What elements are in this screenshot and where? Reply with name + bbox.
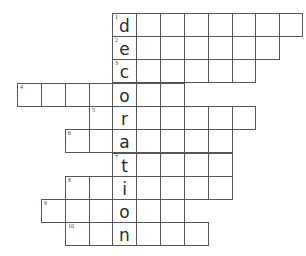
cell-letter: c <box>113 60 136 82</box>
crossword-cell[interactable] <box>160 83 185 107</box>
crossword-cell[interactable] <box>208 153 233 177</box>
crossword-cell[interactable] <box>279 13 303 37</box>
crossword-cell-filled[interactable]: o <box>112 199 137 223</box>
crossword-cell[interactable] <box>41 83 66 107</box>
cell-letter: e <box>113 37 136 59</box>
crossword-cell-filled[interactable]: 3c <box>112 59 137 83</box>
cell-letter: n <box>113 223 136 245</box>
cell-letter: t <box>113 154 136 176</box>
crossword-cell[interactable] <box>255 13 280 37</box>
crossword-cell[interactable] <box>136 106 161 130</box>
clue-number: 4 <box>20 84 23 91</box>
crossword-cell[interactable] <box>208 176 233 200</box>
crossword-cell[interactable] <box>136 59 161 83</box>
clue-number: 6 <box>68 130 71 137</box>
crossword-cell[interactable] <box>160 222 185 246</box>
crossword-cell[interactable] <box>89 199 113 223</box>
crossword-cell[interactable]: 9 <box>41 199 66 223</box>
crossword-cell[interactable] <box>136 36 161 60</box>
crossword-cell[interactable] <box>184 153 209 177</box>
crossword-cell[interactable]: 8 <box>65 176 90 200</box>
crossword-cell[interactable] <box>208 106 233 130</box>
crossword-cell-filled[interactable]: r <box>112 106 137 130</box>
clue-number: 8 <box>68 177 71 184</box>
crossword-cell[interactable] <box>208 13 233 37</box>
crossword-cell[interactable] <box>232 13 256 37</box>
crossword-cell-filled[interactable]: 2e <box>112 36 137 60</box>
crossword-cell[interactable] <box>65 199 90 223</box>
crossword-cell[interactable] <box>184 222 209 246</box>
crossword-cell[interactable] <box>136 199 161 223</box>
crossword-cell[interactable] <box>136 153 161 177</box>
cell-letter: o <box>113 200 136 222</box>
crossword-cell[interactable] <box>89 176 113 200</box>
crossword-cell[interactable] <box>208 36 233 60</box>
crossword-cell[interactable] <box>232 106 256 130</box>
cell-letter: a <box>113 130 136 152</box>
crossword-cell[interactable]: 5 <box>89 106 113 130</box>
crossword-cell[interactable] <box>184 106 209 130</box>
crossword-cell[interactable]: 6 <box>65 129 90 153</box>
cell-letter: i <box>113 177 136 199</box>
crossword-cell[interactable] <box>160 59 185 83</box>
crossword-cell-filled[interactable]: i <box>112 176 137 200</box>
crossword-cell-filled[interactable]: 1d <box>112 13 137 37</box>
clue-number: 9 <box>44 200 47 207</box>
crossword-cell[interactable]: 4 <box>17 83 42 107</box>
crossword-cell[interactable] <box>65 83 90 107</box>
crossword-cell[interactable] <box>160 13 185 37</box>
crossword-cell[interactable] <box>136 176 161 200</box>
crossword-cell[interactable] <box>136 13 161 37</box>
crossword-cell[interactable] <box>184 36 209 60</box>
crossword-cell[interactable] <box>255 36 280 60</box>
cell-letter: o <box>113 84 136 106</box>
crossword-cell[interactable] <box>136 222 161 246</box>
crossword-cell[interactable] <box>184 13 209 37</box>
crossword-cell[interactable] <box>89 129 113 153</box>
crossword-cell[interactable] <box>232 59 256 83</box>
crossword-cell[interactable] <box>89 222 113 246</box>
crossword-cell-filled[interactable]: o <box>112 83 137 107</box>
crossword-cell[interactable] <box>160 36 185 60</box>
crossword-cell[interactable] <box>160 153 185 177</box>
clue-number: 5 <box>92 107 95 114</box>
crossword-cell[interactable] <box>160 106 185 130</box>
crossword-cell[interactable] <box>184 129 209 153</box>
crossword-cell[interactable] <box>208 129 233 153</box>
crossword-cell[interactable]: 10 <box>65 222 90 246</box>
crossword-cell[interactable] <box>232 36 256 60</box>
crossword-cell-filled[interactable]: 7t <box>112 153 137 177</box>
crossword-cell[interactable] <box>208 59 233 83</box>
crossword-cell[interactable] <box>89 83 113 107</box>
crossword-cell[interactable] <box>136 129 161 153</box>
crossword-cell[interactable] <box>160 129 185 153</box>
crossword-cell[interactable] <box>184 176 209 200</box>
crossword-cell-filled[interactable]: a <box>112 129 137 153</box>
crossword-cell[interactable] <box>160 199 185 223</box>
crossword-cell[interactable] <box>160 176 185 200</box>
crossword-cell[interactable] <box>136 83 161 107</box>
crossword-cell-filled[interactable]: n <box>112 222 137 246</box>
crossword-cell[interactable] <box>184 59 209 83</box>
cell-letter: d <box>113 14 136 36</box>
clue-number: 10 <box>68 223 74 230</box>
crossword-grid: 1d2e3c4o5r6a7t8i9o10n <box>0 0 306 256</box>
cell-letter: r <box>113 107 136 129</box>
